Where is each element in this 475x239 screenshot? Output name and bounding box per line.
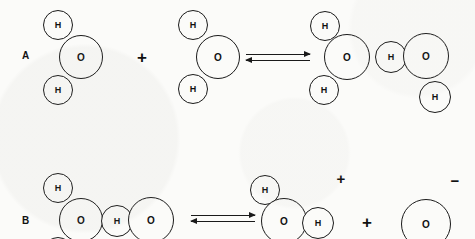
arrowhead-right-icon [249, 212, 256, 218]
atom-hydrogen: H [419, 81, 451, 113]
atom-hydrogen: H [43, 173, 73, 203]
atom-hydrogen: H [302, 207, 334, 239]
plus-operator: + [137, 49, 147, 66]
atom-oxygen: O [324, 34, 370, 80]
atom-oxygen: O [59, 35, 103, 79]
arrowhead-left-icon [190, 218, 197, 224]
atom-hydrogen: H [178, 10, 208, 40]
atom-hydrogen: H [178, 74, 208, 104]
atom-oxygen: O [261, 198, 307, 239]
arrow-bar-reverse [191, 221, 255, 222]
atom-oxygen: O [403, 33, 449, 79]
charge-sign: + [337, 171, 346, 186]
arrowhead-right-icon [304, 51, 311, 57]
row-label-a: A [22, 50, 30, 61]
charge-sign: − [451, 173, 460, 188]
atom-oxygen: O [196, 35, 240, 79]
equilibrium-arrow [246, 54, 310, 62]
atom-oxygen: O [401, 199, 451, 239]
atom-hydrogen: H [309, 75, 339, 105]
arrow-bar-reverse [246, 60, 310, 61]
atom-oxygen: O [59, 198, 103, 239]
atom-hydrogen: H [43, 10, 73, 40]
atom-oxygen: O [128, 197, 174, 239]
atom-hydrogen: H [43, 75, 73, 105]
plus-operator: + [362, 214, 372, 231]
equilibrium-arrow [191, 215, 255, 223]
arrow-bar-forward [191, 215, 255, 216]
row-label-b: B [22, 215, 30, 226]
diagram-canvas: AHHOHHOHHOHOH+BHHOHOHOHO++− [0, 0, 475, 239]
arrow-bar-forward [246, 54, 310, 55]
arrowhead-left-icon [245, 57, 252, 63]
